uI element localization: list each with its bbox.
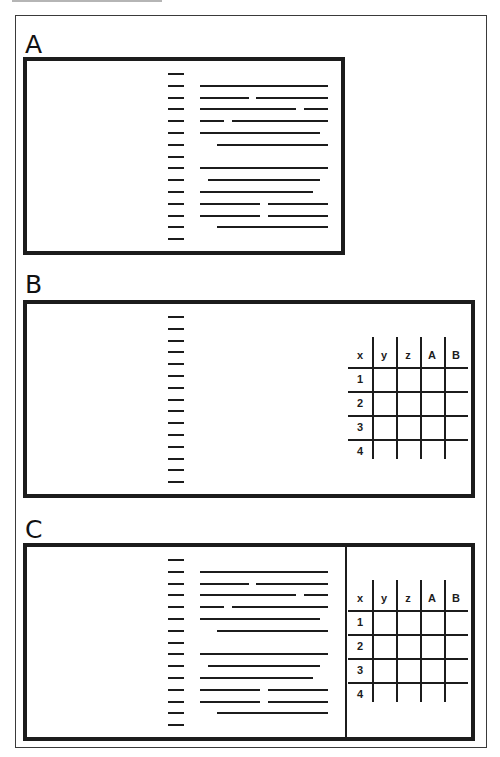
index-dash (168, 689, 184, 691)
panel-c-divider (345, 547, 347, 737)
index-dash (168, 179, 184, 181)
index-dash (168, 215, 184, 217)
text-line (208, 665, 321, 667)
table-header-cell: y (374, 350, 394, 361)
panel-c-screen: xyzAB1234 (23, 543, 475, 741)
table-row-line (348, 439, 468, 441)
text-line (217, 712, 328, 714)
index-dash (168, 665, 184, 667)
index-dash (168, 410, 184, 412)
text-line (200, 167, 328, 169)
index-dash (168, 399, 184, 401)
text-line (200, 653, 328, 655)
index-dash (168, 387, 184, 389)
index-dash (168, 594, 184, 596)
index-dash (168, 422, 184, 424)
text-line (304, 594, 328, 596)
index-dash (168, 363, 184, 365)
text-line (200, 594, 296, 596)
index-dash (168, 156, 184, 158)
index-dash (168, 571, 184, 573)
index-dash (168, 108, 184, 110)
panel-a-label: A (25, 32, 42, 57)
table-row-label: 4 (350, 689, 370, 700)
index-dash (168, 630, 184, 632)
index-dash (168, 481, 184, 483)
index-dash (168, 469, 184, 471)
table-column-line (420, 580, 422, 702)
panel-b-label: B (25, 272, 42, 297)
table-row-line (348, 682, 468, 684)
index-dash (168, 340, 184, 342)
table-column-line (444, 337, 446, 459)
text-line (256, 583, 328, 585)
index-dash (168, 583, 184, 585)
table-column-line (420, 337, 422, 459)
index-dash (168, 328, 184, 330)
table-header-cell: x (350, 350, 370, 361)
clipped-running-header (12, 0, 162, 3)
table-header-cell: A (422, 350, 442, 361)
text-line (200, 606, 224, 608)
text-line (200, 571, 328, 573)
table-row-label: 3 (350, 422, 370, 433)
index-dash (168, 144, 184, 146)
panel-c-label: C (25, 517, 42, 542)
index-dash (168, 618, 184, 620)
text-line (268, 689, 328, 691)
text-line (200, 618, 320, 620)
index-dash (168, 606, 184, 608)
index-dash (168, 167, 184, 169)
text-line (200, 701, 260, 703)
table-row-line (348, 391, 468, 393)
text-line (200, 132, 320, 134)
text-line (268, 701, 328, 703)
table-row-label: 1 (350, 374, 370, 385)
panel-b-screen: xyzAB1234 (23, 300, 475, 498)
text-line (200, 583, 249, 585)
text-line (232, 120, 328, 122)
text-line (200, 677, 313, 679)
text-line (200, 120, 224, 122)
table-header-cell: x (350, 593, 370, 604)
text-line (200, 97, 249, 99)
table-header-cell: A (422, 593, 442, 604)
table-column-line (444, 580, 446, 702)
index-dash (168, 712, 184, 714)
index-dash (168, 653, 184, 655)
index-dash (168, 446, 184, 448)
table-row-label: 3 (350, 665, 370, 676)
table-header-cell: z (398, 593, 418, 604)
index-dash (168, 701, 184, 703)
text-line (256, 97, 328, 99)
text-line (200, 203, 260, 205)
table-row-line (348, 367, 468, 369)
table-row-line (348, 634, 468, 636)
text-line (200, 215, 260, 217)
index-dash (168, 132, 184, 134)
table-header-cell: z (398, 350, 418, 361)
text-line (208, 179, 321, 181)
index-dash (168, 120, 184, 122)
table-column-line (372, 580, 374, 702)
text-line (268, 215, 328, 217)
table-header-cell: y (374, 593, 394, 604)
table-row-label: 4 (350, 446, 370, 457)
text-line (232, 606, 328, 608)
text-line (200, 108, 296, 110)
text-line (217, 144, 328, 146)
index-dash (168, 191, 184, 193)
index-dash (168, 226, 184, 228)
text-line (268, 203, 328, 205)
index-dash (168, 559, 184, 561)
index-dash (168, 724, 184, 726)
table-header-cell: B (446, 593, 466, 604)
table-row-label: 2 (350, 398, 370, 409)
text-line (217, 630, 328, 632)
table-row-label: 2 (350, 641, 370, 652)
index-dash (168, 73, 184, 75)
table-header-cell: B (446, 350, 466, 361)
index-dash (168, 85, 184, 87)
index-dash (168, 434, 184, 436)
index-dash (168, 458, 184, 460)
